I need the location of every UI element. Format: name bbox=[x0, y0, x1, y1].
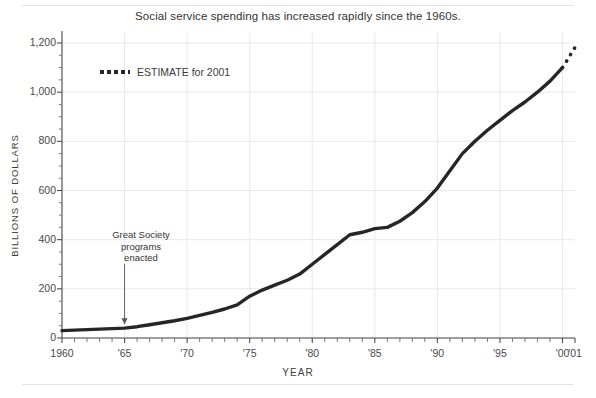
annotation-line-1: Great Society bbox=[96, 229, 186, 241]
legend: ESTIMATE for 2001 bbox=[100, 66, 230, 78]
chart-figure: Social service spending has increased ra… bbox=[0, 0, 596, 398]
annotation-line-2: programs bbox=[96, 241, 186, 253]
great-society-annotation: Great Society programs enacted bbox=[96, 229, 186, 264]
legend-label-estimate: ESTIMATE for 2001 bbox=[137, 66, 230, 78]
plot-area bbox=[0, 0, 596, 398]
estimate-dotted-swatch-icon bbox=[100, 70, 130, 74]
annotation-line-3: enacted bbox=[96, 252, 186, 264]
